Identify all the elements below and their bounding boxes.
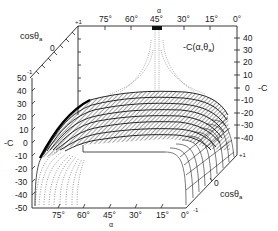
bottom-alpha-tick: 30° [129,210,142,220]
surface-left-flank [35,150,84,205]
bottom-alpha-tick: 60° [77,210,90,220]
right-z-tick: -30 [241,120,254,130]
bottom-alpha-axis: 75° 60° 45° 30° 15° 0° α [52,210,189,228]
top-alpha-tick: 15° [205,14,218,24]
surface-title-end: ) [212,42,215,52]
left-z-tick: -20 [15,164,28,174]
surface-plot: 75° 60° 45° 30° 15° 0° α +1 -C(α,θa) 40 … [0,0,278,231]
right-z-tick: 40 [243,33,253,43]
right-z-tick: -10 [241,95,254,105]
left-z-axis: 50 40 30 20 10 0 -10 -20 -30 -40 -50 -C [4,73,29,213]
surface-title-main: -C(α,θ [183,42,208,52]
svg-text:-C(α,θa): -C(α,θa) [183,42,215,53]
front-cos-sub: a [239,194,243,200]
top-alpha-tick: 0° [233,14,241,24]
bottom-alpha-tick: 0° [181,210,189,220]
left-cos-sub: a [39,36,43,42]
front-cos-tick-zero: 0 [214,178,219,188]
left-z-tick: -10 [15,151,28,161]
top-alpha-axis: 75° 60° 45° 30° 15° 0° α +1 [75,7,241,25]
top-alpha-tick: 60° [125,14,138,24]
right-z-axis: 40 30 20 10 0 -10 -20 -30 -40 -C +1 [239,33,268,158]
left-z-tick: 10 [19,125,29,135]
left-cos-axis: cosθa 0 -1 [20,31,55,75]
surface-plateau [40,91,230,158]
left-z-name: -C [4,138,14,148]
right-z-tick: 10 [243,70,253,80]
right-z-name: -C [258,83,268,93]
left-cos-tick-minus: -1 [27,69,33,75]
left-z-tick: 0 [23,138,28,148]
right-z-tick: 20 [243,57,253,67]
left-cos-tick-zero: 0 [50,43,55,53]
surface-title: -C(α,θa) [183,42,215,53]
front-cos-tick-minus: -1 [193,207,199,213]
left-z-tick: 30 [17,99,27,109]
left-z-tick: 40 [17,86,27,96]
left-z-tick: -50 [15,203,28,213]
right-z-tick: -40 [241,133,254,143]
top-alpha-tick: 75° [99,14,112,24]
right-z-tick: 30 [243,45,253,55]
svg-text:cosθa: cosθa [220,189,243,200]
right-z-tick: 0 [245,83,250,93]
surface-spike [110,26,205,94]
bottom-alpha-tick: 15° [156,210,169,220]
top-alpha-tick: 45° [150,14,163,24]
left-cos-label: cosθ [20,31,39,41]
top-alpha-name: α [157,7,161,14]
corner-plus-one: +1 [75,19,83,25]
left-z-tick: 20 [17,112,27,122]
bottom-alpha-tick: 75° [52,210,65,220]
front-cos-tick-plus: +1 [239,152,247,158]
top-alpha-tick: 30° [177,14,190,24]
left-z-tick: -30 [15,177,28,187]
left-z-tick: -40 [15,190,28,200]
left-z-tick: 50 [17,73,27,83]
front-cos-axis: -1 0 cosθa [193,178,243,213]
bottom-alpha-tick: 45° [103,210,116,220]
right-z-tick: -20 [241,108,254,118]
front-cos-label: cosθ [220,189,239,199]
svg-text:cosθa: cosθa [20,31,43,42]
bottom-alpha-name: α [109,221,113,228]
